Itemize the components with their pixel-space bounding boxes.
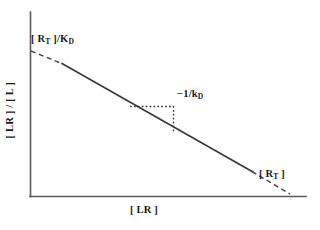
x-intercept-subscript-t: T xyxy=(273,172,278,181)
y-axis-title: [ LR ] / [ L ] xyxy=(5,77,16,143)
scatchard-plot-figure: [ RT ]/KD −1/kD [ RT ] [ LR ] [ LR ] / [… xyxy=(0,0,320,230)
x-intercept-bracket-close: ] xyxy=(278,168,285,179)
y-intercept-subscript-t: T xyxy=(45,37,50,46)
y-intercept-bracket-close: ]/K xyxy=(50,33,68,44)
y-intercept-subscript-d: D xyxy=(68,37,73,46)
x-axis-title: [ LR ] xyxy=(130,205,158,216)
y-intercept-bracket-open: [ R xyxy=(31,33,45,44)
y-intercept-extension-line xyxy=(31,51,63,64)
scatchard-data-line xyxy=(62,64,253,173)
slope-annotation: −1/kD xyxy=(177,89,203,100)
y-intercept-annotation: [ RT ]/KD xyxy=(31,34,74,45)
x-intercept-bracket-open: [ R xyxy=(259,168,273,179)
slope-subscript-d: D xyxy=(198,92,203,101)
slope-prefix: −1/k xyxy=(177,88,198,99)
x-intercept-annotation: [ RT ] xyxy=(259,169,285,180)
